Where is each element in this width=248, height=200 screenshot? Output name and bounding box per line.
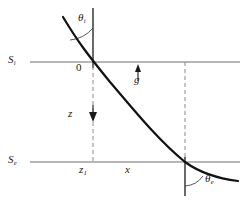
label-lower-surface-sub: e xyxy=(14,159,17,166)
label-lower-surface-base: S xyxy=(8,153,14,165)
label-exit-angle-sub: e xyxy=(211,178,214,185)
label-upper-surface-sub: i xyxy=(14,59,16,66)
label-incident-angle: θi xyxy=(78,12,85,23)
figure-container: Si Se 0 θi θe g z z1 x xyxy=(0,0,248,200)
ray-path-diagram xyxy=(0,0,248,200)
label-depth-value: z1 xyxy=(79,164,87,175)
label-lower-surface: Se xyxy=(8,154,17,165)
gradient-arrow-head-icon xyxy=(135,64,141,72)
label-incident-angle-sub: i xyxy=(84,17,86,24)
label-upper-surface: Si xyxy=(8,54,15,65)
exit-angle-arc xyxy=(185,176,203,186)
depth-arrow-head-icon xyxy=(89,112,97,122)
label-depth-axis: z xyxy=(68,108,72,119)
ray-curve xyxy=(63,17,238,181)
label-incident-angle-base: θ xyxy=(78,11,83,23)
label-exit-angle: θe xyxy=(205,173,213,184)
label-depth-value-base: z xyxy=(79,163,83,175)
label-depth-value-sub: 1 xyxy=(84,169,87,176)
label-horizontal-distance: x xyxy=(125,164,130,175)
label-exit-angle-base: θ xyxy=(205,172,210,184)
label-upper-surface-base: S xyxy=(8,53,14,65)
label-gradient: g xyxy=(134,74,140,85)
label-origin: 0 xyxy=(76,62,82,73)
